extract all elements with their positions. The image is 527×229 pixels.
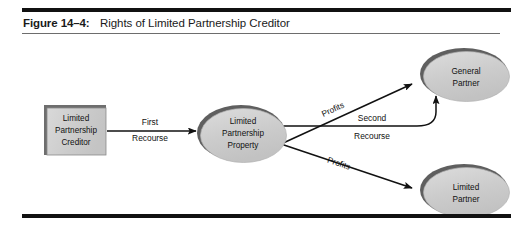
edge-profits-general-partner: Profits [281,84,412,144]
node-limited-partner[interactable]: Limited Partner [420,164,510,214]
general-partner-line-2: Partner [453,79,480,88]
general-partner-line-1: General [451,67,480,76]
first-recourse-label-above: First [142,117,159,127]
diagram-canvas: First Recourse Profits Second Recourse P… [0,38,527,214]
edge-second-recourse: Second Recourse [283,96,436,141]
title-underline-rule [22,33,500,34]
property-line-3: Property [228,141,260,150]
creditor-line-3: Creditor [61,138,90,147]
figure-number-label: Figure 14–4: [23,17,90,29]
limited-partner-line-2: Partner [453,195,480,204]
creditor-line-2: Partnership [55,126,97,135]
property-line-1: Limited [230,117,257,126]
node-general-partner[interactable]: General Partner [420,48,510,102]
node-limited-partnership-property[interactable]: Limited Partnership Property [197,105,287,163]
creditor-line-1: Limited [63,114,90,123]
figure-title: Rights of Limited Partnership Creditor [100,17,290,29]
node-limited-partnership-creditor[interactable]: Limited Partnership Creditor [44,105,106,155]
top-rule [22,8,511,12]
property-line-2: Partnership [222,129,264,138]
general-partner-ellipse [424,52,510,102]
profits-down-label: Profits [326,155,352,172]
edge-profits-limited-partner: Profits [281,144,412,188]
limited-partner-line-1: Limited [453,183,480,192]
edge-first-recourse: First Recourse [107,117,196,143]
figure-container: Figure 14–4: Rights of Limited Partnersh… [0,0,527,229]
first-recourse-label-below: Recourse [132,133,168,143]
second-recourse-label-below: Recourse [354,131,390,141]
profits-up-arrow [281,84,412,144]
second-recourse-label-above: Second [358,113,387,123]
bottom-rule [22,214,511,218]
